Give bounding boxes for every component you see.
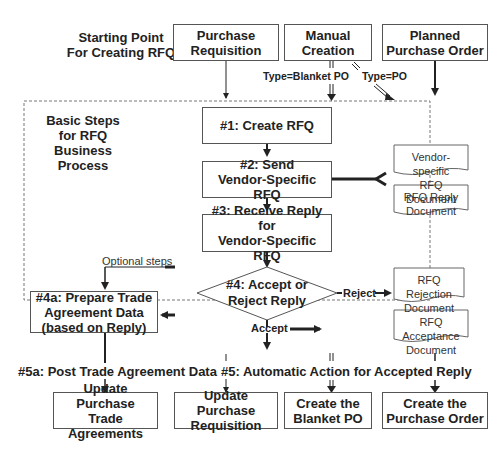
doc-vendor-specific-rfq: Vendor-specific RFQ Document <box>394 145 468 173</box>
step-3-receive-reply[interactable]: #3: Receive Reply for Vendor-Specific RF… <box>202 214 332 252</box>
edge-label-optional-steps: Optional steps <box>102 255 172 267</box>
edge-label-blanket-po: Type=Blanket PO <box>263 70 349 82</box>
target-create-blanket-po[interactable]: Create the Blanket PO <box>284 392 372 429</box>
edge-label-reject: Reject <box>343 287 376 299</box>
target-update-trade-agreements[interactable]: Update Purchase Trade Agreements <box>53 392 158 429</box>
step-5-label: #5: Automatic Action for Accepted Reply <box>221 364 472 379</box>
step-5a-label: #5a: Post Trade Agreement Data <box>18 364 217 379</box>
step-4-accept-reject[interactable]: #4: Accept or Reject Reply <box>205 277 329 309</box>
rfq-process-diagram: Starting Point For Creating RFQ Purchase… <box>0 0 502 452</box>
doc-rfq-acceptance: RFQ Acceptance Document <box>394 310 468 340</box>
doc-rfq-reply: RFQ Reply Document <box>394 185 468 213</box>
edge-label-po: Type=PO <box>362 70 407 82</box>
doc-rfq-rejection: RFQ Rejection Document <box>394 268 464 298</box>
process-title: Basic Steps for RFQ Business Process <box>28 113 138 173</box>
source-manual-creation[interactable]: Manual Creation <box>284 24 372 61</box>
step-4a-prepare-trade-agreement[interactable]: #4a: Prepare Trade Agreement Data (based… <box>30 291 158 333</box>
starting-point-label: Starting Point For Creating RFQ <box>60 30 182 60</box>
source-planned-purchase-order[interactable]: Planned Purchase Order <box>382 24 488 61</box>
target-update-purchase-requisition[interactable]: Update Purchase Requisition <box>174 392 278 429</box>
target-create-purchase-order[interactable]: Create the Purchase Order <box>382 392 488 429</box>
step-1-create-rfq[interactable]: #1: Create RFQ <box>202 107 332 144</box>
step-2-send-rfq[interactable]: #2: Send Vendor-Specific RFQ <box>202 161 332 198</box>
edge-label-accept: Accept <box>251 322 288 334</box>
source-purchase-requisition[interactable]: Purchase Requisition <box>173 24 279 61</box>
